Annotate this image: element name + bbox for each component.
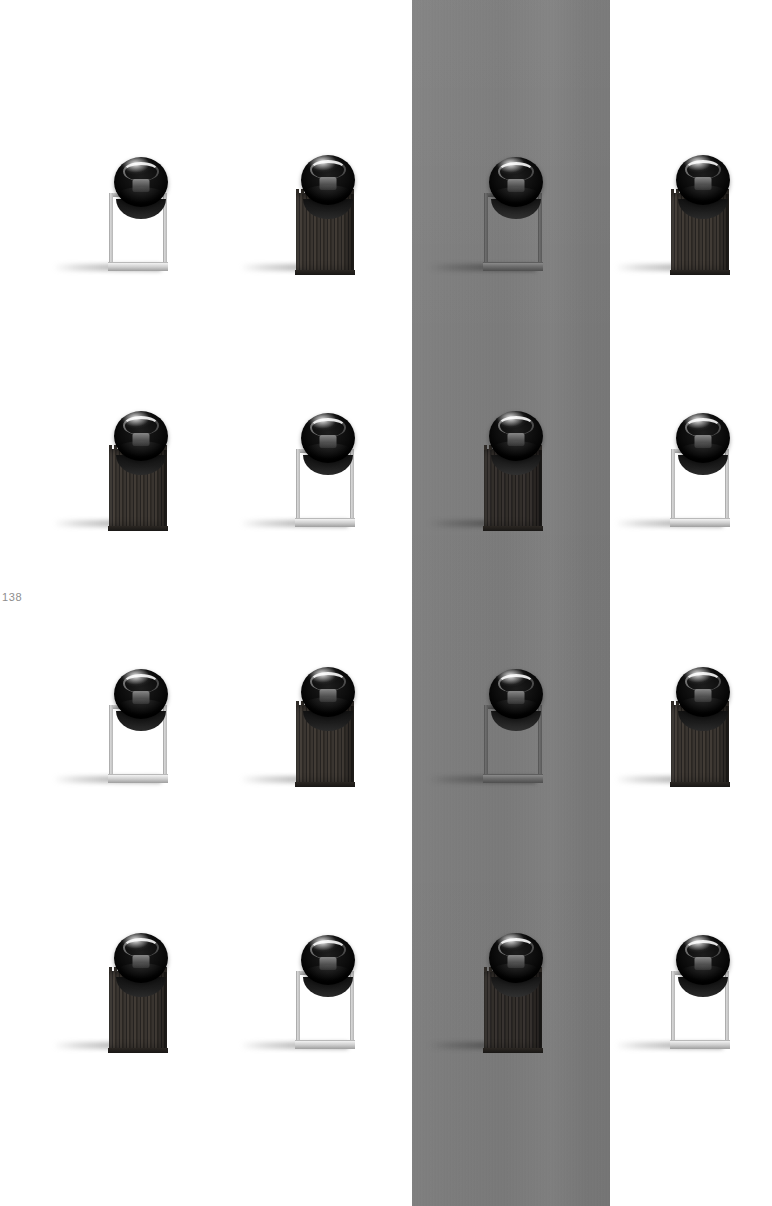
black-orb[interactable] (489, 669, 543, 719)
product-cell[interactable] (643, 403, 763, 533)
black-orb[interactable] (489, 157, 543, 207)
product-wood-base-white[interactable] (268, 659, 388, 789)
black-orb[interactable] (676, 935, 730, 985)
frame-rail-bottom (108, 774, 168, 783)
product-cell[interactable] (268, 403, 388, 533)
frame-leg-l (296, 449, 300, 527)
product-cell[interactable] (81, 925, 201, 1055)
frame-rail-bottom (483, 262, 543, 271)
frame-leg-l (109, 705, 113, 783)
product-wood-base-white[interactable] (643, 147, 763, 277)
product-frame-base-white[interactable] (643, 925, 763, 1055)
orb-rim-shading (117, 963, 165, 980)
page-number: 138 (2, 592, 22, 603)
orb-rim-shading (304, 697, 352, 714)
product-cell[interactable] (643, 659, 763, 789)
product-frame-base-white[interactable] (81, 659, 201, 789)
product-frame-base-white[interactable] (81, 147, 201, 277)
orb-rim-shading (679, 185, 727, 202)
black-orb[interactable] (301, 667, 355, 717)
product-wood-base-gray[interactable] (456, 925, 576, 1055)
product-cell[interactable] (456, 403, 576, 533)
product-cell[interactable] (81, 659, 201, 789)
product-cell[interactable] (456, 147, 576, 277)
black-orb[interactable] (114, 933, 168, 983)
orb-rim-shading (679, 965, 727, 982)
black-orb[interactable] (114, 157, 168, 207)
product-wood-base-white[interactable] (643, 659, 763, 789)
catalog-page: 138 (0, 0, 772, 1206)
black-orb[interactable] (676, 155, 730, 205)
frame-rail-bottom (295, 1040, 355, 1049)
orb-rim-shading (117, 699, 165, 716)
black-orb[interactable] (301, 155, 355, 205)
product-cell[interactable] (456, 659, 576, 789)
frame-leg-l (484, 193, 488, 271)
wood-plinth (108, 1048, 168, 1053)
black-orb[interactable] (676, 667, 730, 717)
wood-plinth (108, 526, 168, 531)
product-cell[interactable] (268, 659, 388, 789)
product-cell[interactable] (268, 925, 388, 1055)
product-frame-base-white[interactable] (643, 403, 763, 533)
wood-plinth (295, 270, 355, 275)
product-frame-base-white[interactable] (268, 925, 388, 1055)
black-orb[interactable] (301, 935, 355, 985)
orb-rim-shading (492, 441, 540, 458)
frame-leg-l (671, 971, 675, 1049)
product-wood-base-white[interactable] (268, 147, 388, 277)
frame-leg-l (671, 449, 675, 527)
frame-leg-l (109, 193, 113, 271)
black-orb[interactable] (114, 411, 168, 461)
orb-rim-shading (492, 187, 540, 204)
product-cell[interactable] (456, 925, 576, 1055)
product-frame-base-white[interactable] (268, 403, 388, 533)
product-cell[interactable] (81, 403, 201, 533)
orb-rim-shading (304, 965, 352, 982)
wood-plinth (483, 526, 543, 531)
product-wood-base-gray[interactable] (456, 403, 576, 533)
orb-rim-shading (492, 699, 540, 716)
frame-rail-bottom (108, 262, 168, 271)
product-cell[interactable] (81, 147, 201, 277)
black-orb[interactable] (489, 411, 543, 461)
frame-rail-bottom (483, 774, 543, 783)
frame-rail-bottom (670, 518, 730, 527)
wood-plinth (483, 1048, 543, 1053)
frame-leg-l (296, 971, 300, 1049)
frame-leg-l (484, 705, 488, 783)
orb-rim-shading (304, 185, 352, 202)
wood-plinth (295, 782, 355, 787)
black-orb[interactable] (114, 669, 168, 719)
black-orb[interactable] (301, 413, 355, 463)
product-frame-base-gray[interactable] (456, 659, 576, 789)
product-wood-base-white[interactable] (81, 403, 201, 533)
product-cell[interactable] (643, 147, 763, 277)
orb-rim-shading (679, 697, 727, 714)
frame-rail-bottom (295, 518, 355, 527)
orb-rim-shading (117, 441, 165, 458)
product-wood-base-white[interactable] (81, 925, 201, 1055)
frame-rail-bottom (670, 1040, 730, 1049)
product-cell[interactable] (643, 925, 763, 1055)
black-orb[interactable] (489, 933, 543, 983)
orb-rim-shading (117, 187, 165, 204)
orb-rim-shading (304, 443, 352, 460)
orb-rim-shading (492, 963, 540, 980)
product-cell[interactable] (268, 147, 388, 277)
product-frame-base-gray[interactable] (456, 147, 576, 277)
wood-plinth (670, 270, 730, 275)
orb-rim-shading (679, 443, 727, 460)
wood-plinth (670, 782, 730, 787)
black-orb[interactable] (676, 413, 730, 463)
